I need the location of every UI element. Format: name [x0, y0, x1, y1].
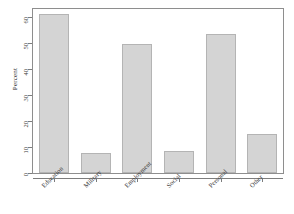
y-axis-tick-label: 30 — [23, 95, 30, 102]
y-axis-tick-label: 20 — [23, 121, 30, 128]
bar — [206, 34, 236, 173]
y-axis-tick-label: 10 — [23, 147, 30, 154]
bar — [122, 44, 152, 173]
bar-chart-figure: Percent 0102030405060 EducationMilitaryE… — [0, 0, 294, 214]
y-axis-tick-label: 40 — [23, 69, 30, 76]
x-axis-line — [33, 178, 283, 179]
plot-area — [33, 9, 283, 173]
bars-group — [33, 9, 283, 173]
bar — [164, 151, 194, 173]
y-axis-tick-label: 50 — [23, 43, 30, 50]
x-axis: EducationMilitaryEmploymentSocialPersona… — [0, 174, 294, 214]
y-axis-title: Percent — [11, 68, 19, 90]
bar — [247, 134, 277, 173]
y-axis-tick-label: 60 — [23, 17, 30, 24]
bar — [39, 14, 69, 173]
